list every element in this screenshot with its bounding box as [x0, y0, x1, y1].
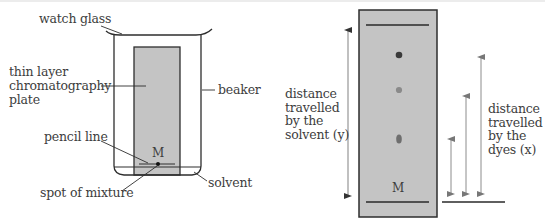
- label-pencil-line: pencil line: [44, 130, 108, 144]
- label-dye-distance: distance travelled by the dyes (x): [488, 102, 543, 157]
- diagram-canvas: watch glass thin layer chromatography pl…: [0, 0, 545, 224]
- dye-spot-3: [396, 134, 402, 143]
- label-mixture-marker-left: M: [152, 146, 164, 160]
- label-solvent: solvent: [208, 176, 252, 190]
- label-solvent-distance: distance travelled by the solvent (y): [285, 87, 349, 142]
- label-spot-of-mixture: spot of mixture: [40, 186, 133, 200]
- leader-watch-glass: [101, 26, 122, 34]
- beaker-apparatus: [101, 26, 215, 191]
- label-mixture-marker-right: M: [392, 181, 404, 195]
- dye-spot-2: [396, 87, 402, 93]
- chromatogram: [348, 10, 505, 217]
- label-beaker: beaker: [218, 83, 261, 97]
- label-tlc-plate: thin layer chromatography plate: [9, 65, 111, 107]
- dye-spot-1: [396, 52, 403, 59]
- label-watch-glass: watch glass: [39, 12, 111, 26]
- leader-solvent: [194, 172, 207, 181]
- mixture-spot: [156, 162, 160, 166]
